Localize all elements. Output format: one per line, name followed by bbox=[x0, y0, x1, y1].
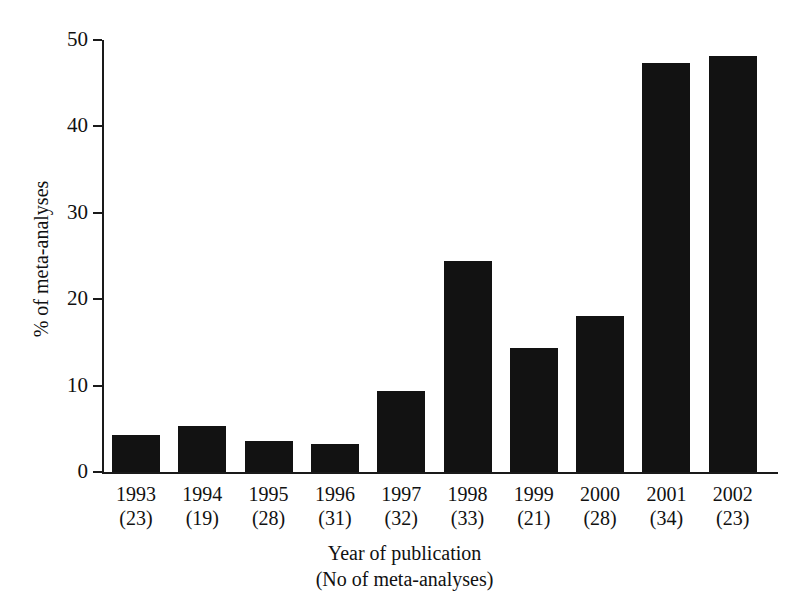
x-axis-tick-label: 2002(23) bbox=[693, 482, 773, 530]
x-axis-tick-label-count: (23) bbox=[693, 506, 773, 530]
bar bbox=[642, 63, 690, 472]
bar bbox=[245, 441, 293, 472]
bar bbox=[444, 261, 492, 472]
bar bbox=[178, 426, 226, 472]
y-axis-title: % of meta-analyses bbox=[30, 129, 52, 389]
x-axis-title-line2: (No of meta-analyses) bbox=[0, 566, 809, 592]
x-axis-tick-label-year: 2002 bbox=[693, 482, 773, 506]
bar bbox=[377, 391, 425, 472]
bar bbox=[311, 444, 359, 472]
x-axis-title-line1: Year of publication bbox=[328, 542, 482, 564]
bar bbox=[510, 348, 558, 472]
bar-chart: 01020304050 1993(23)1994(19)1995(28)1996… bbox=[0, 0, 809, 607]
bar bbox=[576, 316, 624, 472]
bar bbox=[709, 56, 757, 472]
x-axis-title: Year of publication (No of meta-analyses… bbox=[0, 540, 809, 592]
bar bbox=[112, 435, 160, 472]
